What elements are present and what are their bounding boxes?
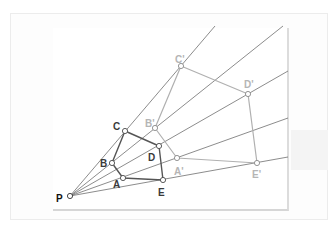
point-D-point-icon <box>156 143 161 148</box>
labels-group: ABCDEA'B'C'D'E'P <box>56 54 261 204</box>
center-label: P <box>56 193 63 204</box>
point-C-point-icon <box>122 128 127 133</box>
point-Cprime-label: C' <box>175 54 185 65</box>
point-Bprime-label: B' <box>145 118 155 129</box>
point-Dprime-point-icon <box>245 91 250 96</box>
point-Aprime-point-icon <box>174 155 179 160</box>
point-Aprime-label: A' <box>174 166 184 177</box>
point-B-label: B <box>100 158 107 169</box>
dilation-diagram: ABCDEA'B'C'D'E'P <box>0 0 335 231</box>
point-D-label: D <box>148 152 155 163</box>
point-Eprime-label: E' <box>252 169 261 180</box>
pentagon-AprimeBprimeCprimeDprimeEprime <box>155 66 257 163</box>
point-C-label: C <box>113 121 120 132</box>
point-A-label: A <box>113 179 120 190</box>
ray-through-B-C-Cprime <box>70 26 215 196</box>
point-E-label: E <box>158 187 165 198</box>
point-B-point-icon <box>109 160 114 165</box>
point-Eprime-point-icon <box>254 160 259 165</box>
point-A-point-icon <box>120 175 125 180</box>
center-point-icon <box>67 193 72 198</box>
image-pentagon <box>155 66 257 163</box>
points-group <box>67 63 259 198</box>
point-Dprime-label: D' <box>244 79 254 90</box>
point-E-point-icon <box>160 177 165 182</box>
